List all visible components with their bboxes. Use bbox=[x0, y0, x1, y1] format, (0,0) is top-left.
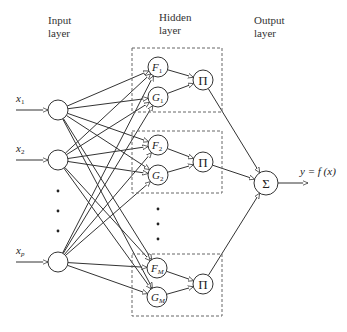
input-layer-title: Inputlayer bbox=[48, 14, 71, 39]
network-nodes: x1x2xpF1G1ΠF2G2ΠFMGMΠΣy = f (x) bbox=[15, 48, 336, 316]
ellipsis-dot bbox=[57, 190, 60, 193]
edge bbox=[167, 287, 194, 295]
input-label-xp: xp bbox=[15, 244, 25, 258]
edge bbox=[67, 71, 149, 106]
output-formula: y = f (x) bbox=[299, 165, 336, 178]
ellipsis-dot bbox=[57, 230, 60, 233]
edge bbox=[166, 271, 193, 280]
ellipsis-dot bbox=[157, 208, 160, 211]
edge bbox=[68, 98, 148, 108]
edge bbox=[64, 168, 151, 289]
input-label-x1: x1 bbox=[15, 92, 25, 106]
edge bbox=[168, 70, 194, 77]
product-symbol: Π bbox=[198, 277, 207, 292]
edge bbox=[66, 102, 149, 154]
rbf-network-diagram: Inputlayer Hiddenlayer Outputlayer x1x2x… bbox=[0, 0, 347, 332]
edge bbox=[65, 167, 150, 260]
edge bbox=[167, 149, 193, 159]
output-layer-title: Outputlayer bbox=[254, 14, 285, 39]
edge bbox=[67, 265, 147, 293]
input-label-x2: x2 bbox=[15, 142, 25, 156]
edge bbox=[212, 165, 254, 179]
hidden-layer-title: Hiddenlayer bbox=[159, 11, 192, 36]
edge bbox=[63, 118, 151, 259]
input-node bbox=[48, 100, 68, 120]
edge bbox=[68, 146, 148, 158]
ellipsis-dot bbox=[157, 223, 160, 226]
edge bbox=[168, 165, 194, 172]
edge bbox=[167, 84, 193, 94]
product-symbol: Π bbox=[198, 73, 207, 88]
edge bbox=[67, 113, 148, 141]
edge bbox=[208, 89, 260, 173]
ellipsis-dot bbox=[57, 210, 60, 213]
sum-symbol: Σ bbox=[262, 176, 270, 191]
ellipsis-dot bbox=[157, 238, 160, 241]
input-node bbox=[48, 252, 68, 272]
input-node bbox=[48, 150, 68, 170]
edge bbox=[68, 161, 148, 173]
product-symbol: Π bbox=[198, 155, 207, 170]
edge bbox=[208, 193, 259, 275]
